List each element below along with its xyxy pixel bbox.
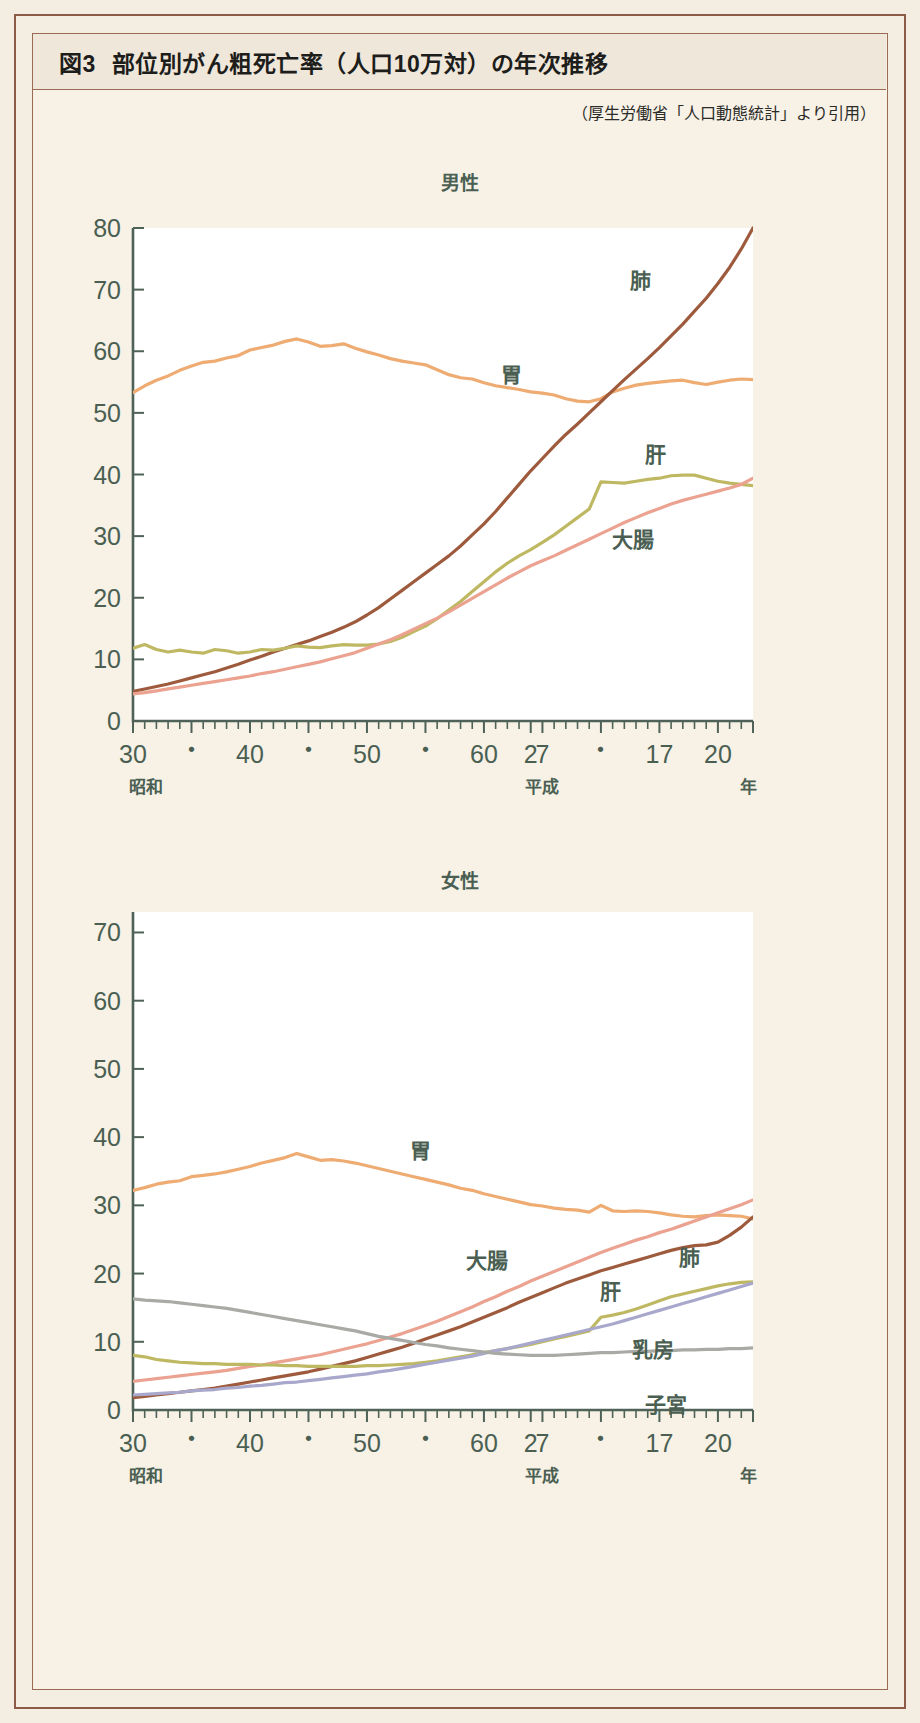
series-label-胃: 胃 bbox=[410, 1139, 431, 1162]
x-tick-label: 40 bbox=[236, 1429, 264, 1457]
figure-source: （厚生労働省「人口動態統計」より引用） bbox=[572, 100, 876, 124]
x-tick-label: 30 bbox=[119, 740, 147, 768]
x-tick-label: 20 bbox=[704, 1429, 732, 1457]
y-tick-label: 20 bbox=[93, 584, 121, 612]
y-tick-label: 70 bbox=[93, 276, 121, 304]
y-tick-label: 0 bbox=[107, 707, 121, 735]
x-tick-label: ・ bbox=[296, 1425, 321, 1453]
series-label-肺: 肺 bbox=[630, 269, 651, 292]
page-title: 図3部位別がん粗死亡率（人口10万対）の年次推移 bbox=[59, 45, 608, 79]
x-tick-label: 17 bbox=[646, 1429, 674, 1457]
series-label-肝: 肝 bbox=[645, 443, 666, 466]
x-tick-label: ・ bbox=[296, 736, 321, 764]
series-label-大腸: 大腸 bbox=[466, 1249, 508, 1272]
x-tick-label: 7 bbox=[535, 740, 549, 768]
y-tick-label: 30 bbox=[93, 522, 121, 550]
x-tick-label: ・ bbox=[588, 1425, 613, 1453]
y-tick-label: 40 bbox=[93, 1123, 121, 1151]
x-tick-label: ・ bbox=[179, 1425, 204, 1453]
y-tick-label: 0 bbox=[107, 1396, 121, 1424]
female-line-chart: 01020304050607030・40・50・6027・1720昭和平成年胃大… bbox=[0, 894, 920, 1554]
y-tick-label: 60 bbox=[93, 337, 121, 365]
x-tick-label: 60 bbox=[470, 740, 498, 768]
era-label-showa: 昭和 bbox=[129, 778, 163, 797]
y-tick-label: 10 bbox=[93, 1328, 121, 1356]
y-tick-label: 50 bbox=[93, 1055, 121, 1083]
x-tick-label: 30 bbox=[119, 1429, 147, 1457]
x-tick-label: 60 bbox=[470, 1429, 498, 1457]
male-panel-heading: 男性 bbox=[0, 168, 920, 195]
x-tick-label: 40 bbox=[236, 740, 264, 768]
axis-unit-label: 年 bbox=[740, 1466, 757, 1486]
figure-number: 図3 bbox=[59, 51, 96, 77]
y-tick-label: 20 bbox=[93, 1260, 121, 1288]
x-tick-label: 17 bbox=[646, 740, 674, 768]
series-label-肝: 肝 bbox=[600, 1280, 621, 1303]
male-line-chart: 0102030405060708030・40・50・6027・1720昭和平成年… bbox=[0, 196, 920, 856]
figure-title-bar: 図3部位別がん粗死亡率（人口10万対）の年次推移 bbox=[33, 34, 886, 90]
era-label-heisei: 平成 bbox=[525, 777, 559, 797]
plot-area bbox=[133, 912, 753, 1410]
y-tick-label: 80 bbox=[93, 214, 121, 242]
series-label-大腸: 大腸 bbox=[612, 528, 654, 551]
x-tick-label: 50 bbox=[353, 1429, 381, 1457]
x-tick-label: 20 bbox=[704, 740, 732, 768]
x-tick-label: 50 bbox=[353, 740, 381, 768]
y-tick-label: 70 bbox=[93, 918, 121, 946]
x-tick-label: ・ bbox=[588, 736, 613, 764]
y-tick-label: 10 bbox=[93, 645, 121, 673]
y-tick-label: 40 bbox=[93, 461, 121, 489]
x-tick-label: ・ bbox=[413, 736, 438, 764]
y-tick-label: 30 bbox=[93, 1191, 121, 1219]
plot-area bbox=[133, 228, 753, 721]
series-label-子宮: 子宮 bbox=[645, 1393, 687, 1416]
female-panel-heading: 女性 bbox=[0, 866, 920, 893]
x-tick-label: ・ bbox=[179, 736, 204, 764]
figure-title-text: 部位別がん粗死亡率（人口10万対）の年次推移 bbox=[112, 51, 609, 77]
era-label-showa: 昭和 bbox=[129, 1467, 163, 1486]
x-tick-label: ・ bbox=[413, 1425, 438, 1453]
axis-unit-label: 年 bbox=[740, 777, 757, 797]
series-label-乳房: 乳房 bbox=[632, 1338, 674, 1361]
series-label-胃: 胃 bbox=[501, 363, 522, 386]
series-label-肺: 肺 bbox=[679, 1246, 700, 1269]
y-tick-label: 50 bbox=[93, 399, 121, 427]
figure-page: 図3部位別がん粗死亡率（人口10万対）の年次推移 （厚生労働省「人口動態統計」よ… bbox=[0, 0, 920, 1723]
x-tick-label: 7 bbox=[535, 1429, 549, 1457]
era-label-heisei: 平成 bbox=[525, 1466, 559, 1486]
y-tick-label: 60 bbox=[93, 987, 121, 1015]
